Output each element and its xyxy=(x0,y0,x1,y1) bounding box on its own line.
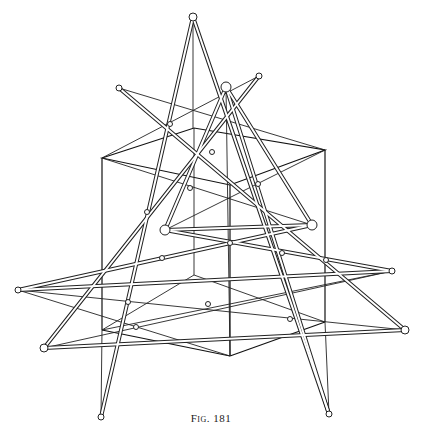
node-triangle-right xyxy=(307,220,317,230)
node-triangle-left xyxy=(160,225,170,235)
struts xyxy=(18,17,405,417)
geometric-figure xyxy=(0,0,422,439)
node-apex-inner xyxy=(221,82,231,92)
cube xyxy=(102,128,325,356)
node-star-left xyxy=(15,287,21,293)
figure-caption: Fig. 181 xyxy=(0,412,422,424)
node-upper-right xyxy=(256,73,262,79)
node-star-right xyxy=(389,268,395,274)
node-star-lower-right xyxy=(401,326,409,334)
node-star-lower-left xyxy=(40,344,48,352)
node-upper-left xyxy=(116,85,122,91)
node-apex-top xyxy=(189,13,197,21)
